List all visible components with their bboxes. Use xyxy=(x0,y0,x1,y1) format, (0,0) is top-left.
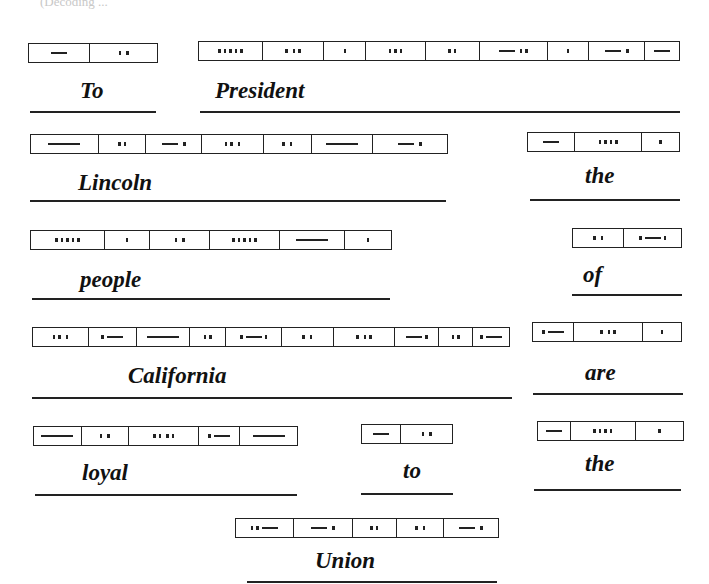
dot-mark xyxy=(282,142,285,146)
dash-mark xyxy=(311,527,327,529)
dot-mark xyxy=(423,526,426,530)
dot-mark xyxy=(232,238,235,242)
dot-mark xyxy=(153,434,156,438)
morse-letter-cell xyxy=(395,328,439,346)
dot-mark xyxy=(454,49,457,53)
dot-mark xyxy=(394,49,397,53)
morse-letter-cell xyxy=(480,42,548,60)
dot-mark xyxy=(599,140,602,144)
long-dash-mark xyxy=(41,435,73,437)
long-dash-mark xyxy=(326,143,358,145)
dot-mark xyxy=(298,49,301,53)
dot-mark xyxy=(415,526,418,530)
morse-letter-cell xyxy=(533,323,574,341)
dot-mark xyxy=(249,238,252,242)
morse-letter-cell xyxy=(589,42,645,60)
dot-mark xyxy=(240,335,243,339)
morse-letter-cell xyxy=(366,42,426,60)
morse-letter-cell xyxy=(263,42,325,60)
dot-mark xyxy=(285,49,288,53)
long-dash-mark xyxy=(147,336,179,338)
dash-mark xyxy=(162,143,178,145)
dot-mark xyxy=(658,429,661,433)
dot-mark xyxy=(601,236,604,240)
morse-letter-cell xyxy=(643,323,681,341)
morse-letter-cell xyxy=(571,422,636,440)
answer-line xyxy=(32,397,512,399)
dash-mark xyxy=(543,141,559,143)
morse-letter-cell xyxy=(199,427,241,445)
morse-letter-cell xyxy=(264,135,312,153)
decoded-word: people xyxy=(80,267,141,293)
morse-letter-cell xyxy=(397,519,445,537)
dot-mark xyxy=(659,140,662,144)
dash-mark xyxy=(548,331,564,333)
dash-mark xyxy=(262,527,278,529)
dot-mark xyxy=(302,335,305,339)
dot-mark xyxy=(243,238,246,242)
dot-mark xyxy=(615,140,618,144)
morse-letter-cell xyxy=(29,44,90,62)
morse-code-box xyxy=(198,41,680,61)
morse-letter-cell xyxy=(236,519,294,537)
dot-mark xyxy=(452,335,455,339)
dash-mark xyxy=(546,430,562,432)
morse-letter-cell xyxy=(401,425,452,443)
dot-mark xyxy=(230,142,233,146)
morse-code-box xyxy=(32,327,510,347)
dot-mark xyxy=(238,238,241,242)
morse-letter-cell xyxy=(31,231,105,249)
morse-letter-cell xyxy=(199,42,263,60)
dot-mark xyxy=(107,434,110,438)
dot-mark xyxy=(364,335,367,339)
morse-letter-cell xyxy=(129,427,198,445)
decoded-word: President xyxy=(215,78,304,104)
morse-letter-cell xyxy=(137,328,191,346)
morse-letter-cell xyxy=(439,328,473,346)
decoded-word: to xyxy=(403,458,421,484)
morse-letter-cell xyxy=(190,328,226,346)
dot-mark xyxy=(369,335,372,339)
dash-mark xyxy=(214,435,230,437)
dot-mark xyxy=(293,49,296,53)
answer-line xyxy=(200,111,680,113)
answer-line xyxy=(361,493,453,495)
dot-mark xyxy=(425,335,428,339)
dot-mark xyxy=(175,238,178,242)
morse-code-box xyxy=(28,43,158,63)
dot-mark xyxy=(66,335,69,339)
morse-code-box xyxy=(537,421,684,441)
dot-mark xyxy=(370,526,373,530)
morse-code-box xyxy=(30,230,392,250)
dot-mark xyxy=(422,432,425,436)
dot-mark xyxy=(344,49,347,53)
decoded-word: are xyxy=(585,360,616,386)
dot-mark xyxy=(53,335,56,339)
decoded-word: Union xyxy=(315,548,375,574)
morse-letter-cell xyxy=(240,427,297,445)
decoded-word: loyal xyxy=(82,460,128,486)
dot-mark xyxy=(240,49,243,53)
decoded-word: the xyxy=(585,451,614,477)
dot-mark xyxy=(256,526,259,530)
dot-mark xyxy=(126,51,129,55)
morse-letter-cell xyxy=(282,328,334,346)
dot-mark xyxy=(542,330,545,334)
morse-letter-cell xyxy=(210,231,280,249)
dot-mark xyxy=(254,238,257,242)
dash-mark xyxy=(645,237,661,239)
dot-mark xyxy=(208,434,211,438)
answer-line xyxy=(247,581,497,583)
morse-code-box xyxy=(235,518,499,538)
dot-mark xyxy=(593,429,596,433)
dot-mark xyxy=(204,335,207,339)
answer-line xyxy=(35,494,297,496)
dash-mark xyxy=(107,336,123,338)
dot-mark xyxy=(100,434,103,438)
morse-letter-cell xyxy=(202,135,264,153)
morse-letter-cell xyxy=(90,44,157,62)
morse-letter-cell xyxy=(33,328,89,346)
dash-mark xyxy=(51,52,67,54)
morse-code-box xyxy=(361,424,453,444)
answer-line xyxy=(30,111,156,113)
